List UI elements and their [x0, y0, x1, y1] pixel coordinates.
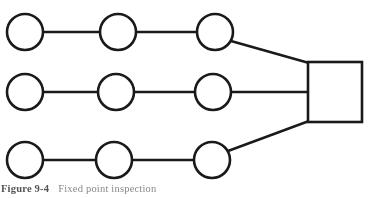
- node-circle-row2-col3: [195, 74, 231, 110]
- node-circle-row2-col2: [98, 74, 134, 110]
- node-circle-row1-col3: [197, 14, 233, 50]
- fixed-point-inspection-diagram: [0, 0, 375, 183]
- node-circle-row3-col3: [194, 142, 230, 178]
- node-circle-row1-col2: [100, 14, 136, 50]
- edge-r1c3-terminal: [231, 41, 309, 63]
- node-circle-row1-col1: [7, 14, 43, 50]
- node-circle-row2-col1: [7, 74, 43, 110]
- node-square-terminal: [308, 62, 362, 122]
- node-group: [7, 14, 362, 178]
- figure-caption-label: Figure 9-4: [0, 183, 49, 195]
- figure-caption-text: Fixed point inspection: [49, 183, 156, 195]
- figure-container: Figure 9-4 Fixed point inspection: [0, 0, 375, 198]
- node-circle-row3-col1: [7, 142, 43, 178]
- edge-r3c3-terminal: [228, 121, 309, 151]
- figure-caption: Figure 9-4 Fixed point inspection: [0, 183, 375, 198]
- edge-group: [43, 32, 309, 160]
- node-circle-row3-col2: [96, 142, 132, 178]
